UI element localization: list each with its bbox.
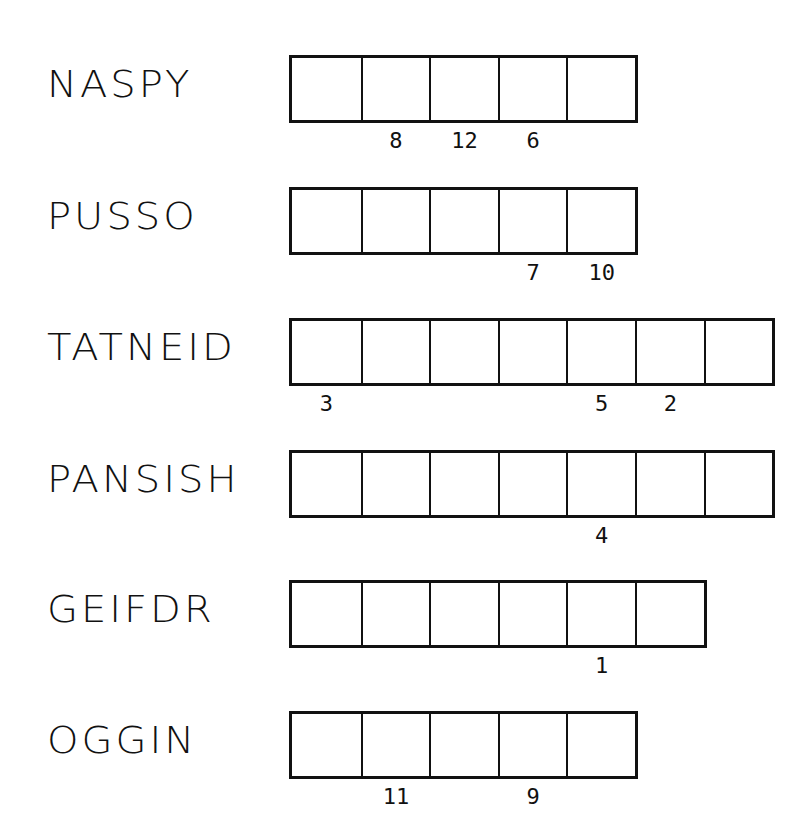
scrambled-word: GEIFDR (47, 590, 215, 628)
clue-number: 1 (568, 655, 635, 677)
letter-box[interactable] (635, 583, 704, 645)
scrambled-word: OGGIN (47, 721, 197, 759)
letter-box[interactable] (361, 321, 430, 383)
clue-number: 12 (431, 130, 498, 152)
clue-number: 4 (568, 525, 635, 547)
letter-box[interactable] (361, 190, 430, 252)
letter-box[interactable]: 8 (361, 58, 430, 120)
clue-number: 10 (568, 262, 635, 284)
puzzle-row-pansish: PANSISH4 (0, 450, 809, 560)
clue-number: 6 (500, 130, 567, 152)
puzzle-row-naspy: NASPY8126 (0, 55, 809, 165)
letter-box[interactable]: 11 (361, 714, 430, 776)
puzzle-row-pusso: PUSSO710 (0, 187, 809, 297)
letter-box[interactable]: 10 (566, 190, 635, 252)
puzzle-row-oggin: OGGIN119 (0, 711, 809, 821)
letter-box[interactable] (566, 58, 635, 120)
letter-box[interactable] (498, 453, 567, 515)
letter-box[interactable] (498, 583, 567, 645)
letter-box[interactable]: 12 (429, 58, 498, 120)
answer-boxes: 8126 (289, 55, 638, 123)
clue-number: 11 (363, 786, 430, 808)
letter-box[interactable] (429, 453, 498, 515)
letter-box[interactable]: 6 (498, 58, 567, 120)
clue-number: 9 (500, 786, 567, 808)
letter-box[interactable] (292, 714, 361, 776)
letter-box[interactable] (498, 321, 567, 383)
letter-box[interactable] (429, 190, 498, 252)
scrambled-word: PUSSO (47, 197, 198, 235)
letter-box[interactable] (429, 583, 498, 645)
letter-box[interactable]: 4 (566, 453, 635, 515)
letter-box[interactable]: 2 (635, 321, 704, 383)
answer-boxes: 4 (289, 450, 775, 518)
letter-box[interactable]: 9 (498, 714, 567, 776)
scrambled-word: PANSISH (47, 460, 240, 498)
scrambled-word: NASPY (47, 65, 192, 103)
letter-box[interactable] (704, 321, 773, 383)
answer-boxes: 1 (289, 580, 707, 648)
letter-box[interactable] (292, 190, 361, 252)
puzzle-row-tatneid: TATNEID352 (0, 318, 809, 428)
answer-boxes: 710 (289, 187, 638, 255)
puzzle-row-geifdr: GEIFDR1 (0, 580, 809, 690)
letter-box[interactable] (361, 453, 430, 515)
letter-box[interactable] (429, 714, 498, 776)
letter-box[interactable] (292, 453, 361, 515)
letter-box[interactable]: 3 (292, 321, 361, 383)
clue-number: 5 (568, 393, 635, 415)
letter-box[interactable]: 5 (566, 321, 635, 383)
letter-box[interactable] (292, 583, 361, 645)
letter-box[interactable] (292, 58, 361, 120)
letter-box[interactable] (429, 321, 498, 383)
clue-number: 2 (637, 393, 704, 415)
scrambled-word: TATNEID (47, 328, 236, 366)
letter-box[interactable]: 1 (566, 583, 635, 645)
answer-boxes: 352 (289, 318, 775, 386)
clue-number: 3 (292, 393, 361, 415)
letter-box[interactable] (635, 453, 704, 515)
letter-box[interactable] (704, 453, 773, 515)
letter-box[interactable]: 7 (498, 190, 567, 252)
letter-box[interactable] (361, 583, 430, 645)
letter-box[interactable] (566, 714, 635, 776)
answer-boxes: 119 (289, 711, 638, 779)
clue-number: 7 (500, 262, 567, 284)
clue-number: 8 (363, 130, 430, 152)
